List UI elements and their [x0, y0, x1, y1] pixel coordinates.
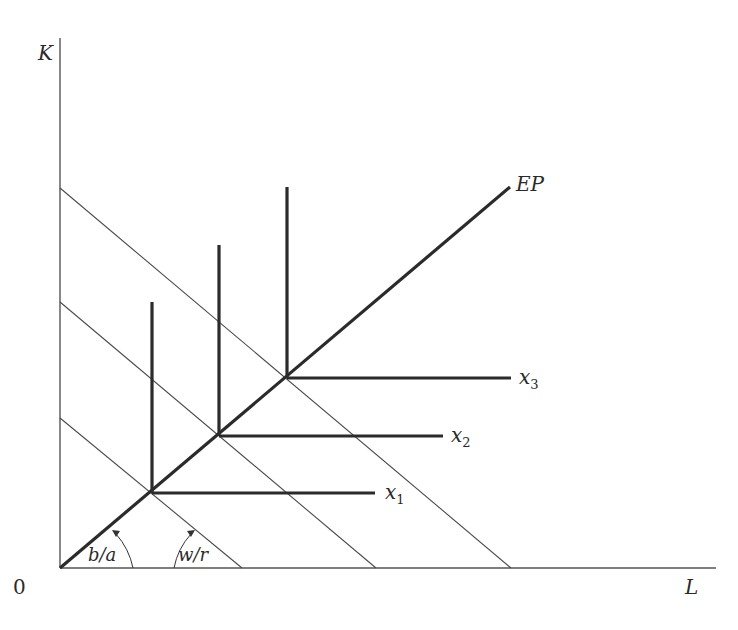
isoquant-x2-label: x2 — [451, 423, 471, 450]
expansion-path-label: EP — [515, 172, 545, 196]
angle-label-ba: b/a — [88, 544, 116, 565]
angle-label-wr: w/r — [178, 544, 209, 565]
k-axis-label: K — [37, 41, 54, 65]
isoquant-x1-label: x1 — [385, 480, 405, 507]
angle-arc-ba — [116, 534, 133, 568]
isoquant-x3-label: x3 — [519, 365, 539, 392]
l-axis-label: L — [684, 575, 698, 599]
arrowhead-wr — [187, 530, 195, 537]
production-diagram: K L 0 EP x1 x2 x3 b/a w/r — [0, 0, 738, 630]
origin-label: 0 — [13, 575, 26, 599]
arrowhead-ba — [112, 530, 120, 537]
